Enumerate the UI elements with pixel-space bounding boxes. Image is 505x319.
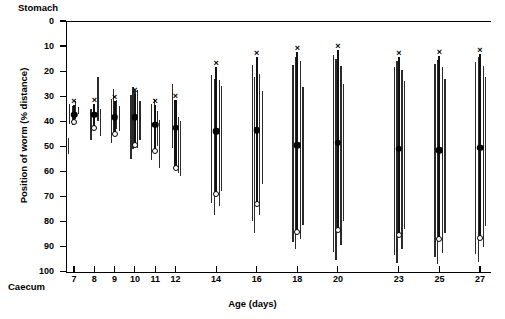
range-bar [444, 79, 445, 233]
range-bar [475, 62, 476, 254]
x-tick-18 [297, 266, 298, 272]
range-bar [68, 138, 69, 154]
x-tick-8 [94, 266, 95, 272]
y-tick-label-30: 30 [28, 92, 54, 101]
y-tick-50 [60, 146, 66, 147]
x-tick-16 [256, 266, 257, 272]
x-tick-label-14: 14 [201, 275, 231, 284]
chart-canvas: Stomach Caecum 0102030405060708090100 78… [0, 0, 505, 319]
upper-extreme-cross-marker: × [153, 96, 158, 105]
range-bar [157, 111, 158, 146]
range-bar [221, 86, 222, 191]
range-bar [211, 75, 212, 203]
x-axis-title: Age (days) [0, 298, 505, 309]
y-tick-label-40: 40 [28, 117, 54, 126]
upper-extreme-cross-marker: × [213, 59, 218, 68]
range-bar [219, 80, 220, 207]
mean-filled-circle-marker [436, 147, 443, 154]
x-tick-label-16: 16 [242, 275, 272, 284]
y-tick-label-70: 70 [28, 192, 54, 201]
y-tick-label-0: 0 [28, 17, 54, 26]
x-tick-9 [114, 266, 115, 272]
y-tick-60 [60, 171, 66, 172]
mean-filled-circle-marker [213, 128, 220, 135]
lower-extreme-open-circle-marker [254, 201, 260, 207]
range-bar [394, 67, 395, 255]
mean-filled-circle-marker [132, 114, 139, 121]
range-bar [292, 65, 293, 242]
upper-extreme-cross-marker: × [477, 45, 482, 54]
range-bar [485, 77, 486, 226]
x-tick-label-12: 12 [161, 275, 191, 284]
lower-extreme-open-circle-marker [132, 142, 138, 148]
x-axis-line [66, 272, 491, 273]
range-bar [180, 121, 181, 176]
mean-filled-circle-marker [152, 122, 159, 129]
range-bar [434, 64, 435, 257]
upper-extreme-cross-marker: × [112, 93, 117, 102]
lower-extreme-open-circle-marker [152, 148, 158, 154]
x-tick-7 [73, 266, 74, 272]
y-tick-label-90: 90 [28, 242, 54, 251]
range-bar [100, 109, 101, 137]
x-tick-label-20: 20 [323, 275, 353, 284]
range-bar [78, 107, 79, 113]
range-bar [259, 74, 260, 216]
range-bar [119, 106, 120, 131]
y-tick-label-100: 100 [28, 267, 54, 276]
y-tick-10 [60, 45, 66, 46]
range-bar [483, 66, 484, 246]
x-tick-label-18: 18 [282, 275, 312, 284]
x-tick-label-23: 23 [384, 275, 414, 284]
x-tick-23 [398, 266, 399, 272]
upper-extreme-cross-marker: × [92, 95, 97, 104]
mean-filled-circle-marker [335, 139, 342, 146]
x-tick-25 [439, 266, 440, 272]
range-bar [262, 91, 263, 184]
lower-extreme-open-circle-marker [173, 165, 179, 171]
caecum-axis-annotation: Caecum [8, 281, 45, 292]
lower-extreme-open-circle-marker [396, 232, 402, 238]
range-bar [159, 120, 160, 168]
lower-extreme-open-circle-marker [436, 236, 442, 242]
y-tick-label-20: 20 [28, 67, 54, 76]
mean-filled-circle-marker [477, 144, 484, 151]
x-tick-27 [479, 266, 480, 272]
summary-range-bar [174, 100, 176, 168]
x-tick-11 [155, 266, 156, 272]
lower-extreme-open-circle-marker [335, 227, 341, 233]
range-bar [343, 84, 344, 222]
x-tick-10 [134, 266, 135, 272]
lower-extreme-open-circle-marker [294, 229, 300, 235]
lower-extreme-open-circle-marker [91, 125, 97, 131]
range-bar [302, 87, 303, 225]
upper-extreme-cross-marker: × [396, 49, 401, 58]
x-tick-label-25: 25 [424, 275, 454, 284]
upper-extreme-cross-marker: × [437, 48, 442, 57]
y-tick-label-50: 50 [28, 142, 54, 151]
lower-extreme-open-circle-marker [112, 131, 118, 137]
y-tick-30 [60, 96, 66, 97]
mean-filled-circle-marker [111, 114, 118, 121]
upper-extreme-cross-marker: × [254, 49, 259, 58]
y-tick-100 [60, 271, 66, 272]
upper-extreme-cross-marker: × [295, 44, 300, 53]
stomach-axis-annotation: Stomach [18, 2, 58, 13]
mean-filled-circle-marker [91, 112, 98, 119]
y-axis-title: Position of worm (% distance) [18, 51, 29, 221]
x-tick-14 [216, 266, 217, 272]
range-bar [404, 81, 405, 229]
upper-extreme-cross-marker: × [173, 91, 178, 100]
range-bar [139, 101, 140, 140]
lower-extreme-open-circle-marker [71, 119, 77, 125]
mean-filled-circle-marker [396, 146, 403, 153]
range-bar [340, 66, 341, 245]
mean-filled-circle-marker [253, 127, 260, 134]
mean-filled-circle-marker [71, 112, 78, 119]
upper-extreme-cross-marker: × [335, 41, 340, 50]
y-tick-90 [60, 246, 66, 247]
range-bar [252, 65, 253, 222]
y-tick-70 [60, 196, 66, 197]
range-bar [401, 70, 402, 249]
lower-extreme-open-circle-marker [213, 191, 219, 197]
